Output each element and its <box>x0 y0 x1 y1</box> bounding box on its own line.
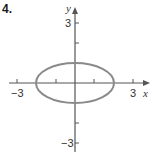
y-axis <box>72 7 78 152</box>
y-axis-label: y <box>65 2 71 14</box>
x-tick-label-neg3: −3 <box>11 87 24 99</box>
y-axis-arrow-icon <box>72 7 78 14</box>
x-axis-label: x <box>142 87 148 99</box>
graph: −3 3 3 −3 x y <box>0 0 152 153</box>
x-axis-arrow-icon <box>143 80 150 86</box>
y-tick-label-neg3: −3 <box>61 137 74 149</box>
x-axis <box>9 80 150 86</box>
y-tick-label-3: 3 <box>65 17 71 29</box>
x-tick-label-3: 3 <box>130 87 136 99</box>
